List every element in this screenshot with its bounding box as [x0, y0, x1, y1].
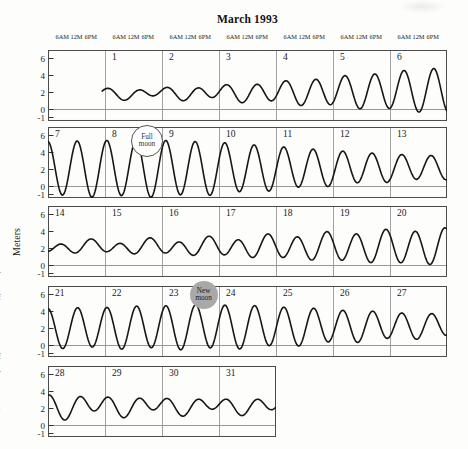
day-number: 9: [169, 130, 174, 140]
scan-smudge: [398, 0, 446, 13]
margin-text-fragment: -: [0, 268, 1, 277]
y-tick-label: 2: [41, 244, 46, 254]
tide-curve: [48, 395, 275, 420]
tide-curve: [102, 69, 447, 112]
time-of-day-labels: 6AM12M6PM: [105, 33, 162, 42]
day-number: 10: [226, 130, 236, 140]
time-label: 6PM: [256, 33, 268, 40]
y-tick-label: 6: [41, 290, 46, 300]
time-of-day-labels: 6AM12M6PM: [48, 33, 105, 42]
time-label: 6AM: [284, 33, 298, 40]
day-number: 31: [226, 369, 236, 379]
y-tick-label: 2: [41, 165, 46, 175]
time-label: 6AM: [227, 33, 241, 40]
day-number: 28: [55, 369, 65, 379]
margin-text-fragment: f: [0, 352, 1, 361]
time-label: 6AM: [56, 33, 70, 40]
y-tick-label: 6: [41, 210, 46, 220]
tide-curve: [48, 141, 446, 198]
day-number: 12: [340, 130, 350, 140]
day-number: 4: [283, 53, 288, 63]
time-of-day-labels: 6AM12M6PM: [390, 33, 447, 42]
y-tick-label: 2: [41, 324, 46, 334]
time-of-day-labels: 6AM12M6PM: [219, 33, 276, 42]
time-label: 6AM: [170, 33, 184, 40]
y-tick-label: 6: [41, 54, 46, 64]
y-tick-label: 4: [41, 227, 46, 237]
y-tick-label: -1: [38, 429, 46, 437]
day-number: 24: [226, 289, 236, 299]
time-label: 12M: [70, 33, 82, 40]
tide-curve: [48, 305, 446, 350]
tide-curve: [48, 228, 446, 265]
moon-label-line: moon: [139, 141, 155, 149]
day-number: 30: [169, 369, 179, 379]
y-tick-label: 6: [41, 131, 46, 141]
day-number: 6: [397, 53, 402, 63]
time-label: 6PM: [427, 33, 439, 40]
day-number: 2: [169, 53, 174, 63]
y-tick-label: 2: [41, 404, 46, 414]
time-label: 6PM: [85, 33, 97, 40]
margin-text-fragment: -: [0, 367, 1, 376]
y-tick-label: 6: [41, 370, 46, 380]
margin-text-fragment: f: [0, 293, 1, 302]
y-tick-label: 4: [41, 148, 46, 158]
day-number: 15: [112, 209, 122, 219]
day-number: 1: [112, 53, 117, 63]
y-tick-label: 4: [41, 307, 46, 317]
day-number: 7: [55, 130, 60, 140]
time-label: 6PM: [142, 33, 154, 40]
time-of-day-labels: 6AM12M6PM: [162, 33, 219, 42]
day-number: 3: [226, 53, 231, 63]
moon-label-line: moon: [195, 295, 211, 303]
day-number: 25: [283, 289, 293, 299]
time-of-day-labels: 6AM12M6PM: [333, 33, 390, 42]
day-number: 23: [169, 289, 179, 299]
time-label: 12M: [298, 33, 310, 40]
day-number: 8: [112, 130, 117, 140]
y-tick-label: -1: [38, 190, 46, 198]
y-tick-label: 4: [41, 387, 46, 397]
time-label: 12M: [241, 33, 253, 40]
day-number: 29: [112, 369, 122, 379]
time-label: 6AM: [341, 33, 355, 40]
time-label: 6PM: [199, 33, 211, 40]
time-label: 12M: [355, 33, 367, 40]
new-moon-annotation: Newmoon: [190, 281, 218, 309]
y-tick-label: -1: [38, 269, 46, 277]
time-of-day-labels: 6AM12M6PM: [276, 33, 333, 42]
day-number: 17: [226, 209, 236, 219]
figure-title: March 1993: [48, 13, 447, 25]
tide-calendar-figure: March 1993 Meters 6AM12M6PM6AM12M6PM6AM1…: [0, 0, 468, 449]
day-number: 27: [397, 289, 407, 299]
day-number: 11: [283, 130, 292, 140]
time-label: 6PM: [370, 33, 382, 40]
y-tick-label: -1: [38, 349, 46, 357]
time-label: 6AM: [398, 33, 412, 40]
y-tick-label: -1: [38, 113, 46, 121]
y-tick-label: 4: [41, 71, 46, 81]
day-number: 16: [169, 209, 179, 219]
time-label: 12M: [412, 33, 424, 40]
day-number: 18: [283, 209, 293, 219]
time-label: 12M: [184, 33, 196, 40]
time-label: 6AM: [113, 33, 127, 40]
day-number: 14: [55, 209, 65, 219]
day-number: 13: [397, 130, 407, 140]
day-number: 5: [340, 53, 345, 63]
day-number: 19: [340, 209, 350, 219]
day-number: 20: [397, 209, 407, 219]
day-number: 21: [55, 289, 65, 299]
time-label: 6PM: [313, 33, 325, 40]
y-tick-label: 2: [41, 88, 46, 98]
day-number: 22: [112, 289, 122, 299]
day-number: 26: [340, 289, 350, 299]
time-label: 12M: [127, 33, 139, 40]
